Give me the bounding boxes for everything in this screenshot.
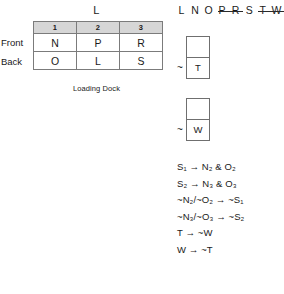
table-row: N P R (34, 34, 163, 52)
letter-strip: L N O P R S T W (176, 4, 282, 20)
logic-statement-list: S₁ → N₂ & O₂ S₂ → N₃ & O₃ ~N₂/~O₂ → ~S₁ … (177, 159, 284, 258)
cell-front-1: N (34, 34, 77, 52)
slot-cell-top (187, 99, 209, 119)
cell-back-3: S (120, 52, 163, 70)
strip-letter-l: L (176, 4, 187, 17)
strip-letter-o: O (203, 4, 214, 17)
strip-letter-s: S (244, 4, 255, 17)
logic-statement: W → ~T (177, 242, 284, 259)
slot-cell-bottom: W (187, 119, 209, 140)
logic-statement: ~N₃/~O₃ → ~S₂ (177, 209, 284, 226)
strip-letter-r: R (230, 4, 241, 17)
column-header-3: 3 (120, 22, 163, 34)
cell-back-1: O (34, 52, 77, 70)
slot-box: T (186, 36, 210, 79)
slot-cell-top (187, 37, 209, 57)
strip-letter-t: T (257, 4, 268, 17)
shelf-top-label: L (33, 4, 160, 16)
table-row: O L S (34, 52, 163, 70)
strip-letter-w: W (271, 4, 282, 17)
strip-letter-p: P (217, 4, 228, 17)
row-label-front: Front (1, 33, 32, 52)
row-label-back: Back (1, 52, 32, 71)
cell-front-3: R (120, 34, 163, 52)
cell-back-2: L (77, 52, 120, 70)
table-header-row: 1 2 3 (34, 22, 163, 34)
logic-statement: S₁ → N₂ & O₂ (177, 159, 284, 176)
column-header-2: 2 (77, 22, 120, 34)
cell-front-2: P (77, 34, 120, 52)
logic-statement: ~N₂/~O₂ → ~S₁ (177, 192, 284, 209)
slot-cell-bottom: T (187, 57, 209, 78)
slot-box: W (186, 98, 210, 141)
negation-marker: ~ (174, 125, 186, 141)
shelf-row-labels: Front Back (1, 33, 32, 71)
strip-letter-n: N (190, 4, 201, 17)
column-header-1: 1 (34, 22, 77, 34)
logic-statement: S₂ → N₃ & O₃ (177, 176, 284, 193)
loading-dock-caption: Loading Dock (33, 84, 160, 93)
shelf-diagram: L Front Back 1 2 3 N P R O L S Loading D… (0, 0, 170, 100)
slot-group-w: ~ W (174, 98, 210, 141)
logic-statement: T → ~W (177, 225, 284, 242)
slot-group-t: ~ T (174, 36, 210, 79)
negation-marker: ~ (174, 63, 186, 79)
shelf-table: 1 2 3 N P R O L S (33, 21, 163, 70)
